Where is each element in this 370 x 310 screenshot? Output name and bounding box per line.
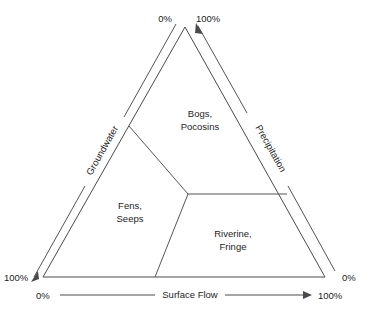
region-fens-seeps-line1: Fens, (118, 200, 142, 211)
precipitation-arrowhead-icon (195, 23, 203, 34)
precipitation-guide-upper (198, 26, 247, 113)
surface-flow-min-percent: 0% (36, 290, 50, 301)
groundwater-guide-lower (34, 186, 85, 277)
apex-left-percent: 0% (158, 13, 172, 24)
region-bogs-pocosins-line1: Bogs, (188, 108, 212, 119)
apex-right-percent: 100% (196, 13, 221, 24)
triangle-outline (43, 27, 325, 277)
precipitation-guide-lower (288, 186, 335, 271)
bottom-right-outer-percent: 0% (342, 272, 356, 283)
groundwater-arrowhead-icon (31, 271, 39, 282)
region-bogs-pocosins-line2: Pocosins (181, 121, 220, 132)
groundwater-guide-upper (124, 24, 176, 117)
surface-flow-arrowhead-icon (303, 291, 312, 299)
ternary-diagram: 0% 100% 100% 0% 0% 100% Groundwater Prec… (0, 0, 370, 310)
surface-flow-axis-label: Surface Flow (162, 289, 218, 300)
region-riverine-fringe-line2: Fringe (220, 241, 247, 252)
bottom-left-outer-percent: 100% (4, 272, 29, 283)
internal-line-lower-left (155, 194, 188, 277)
ternary-svg: 0% 100% 100% 0% 0% 100% Groundwater Prec… (0, 0, 370, 310)
precipitation-axis-label: Precipitation (253, 123, 288, 174)
internal-line-upper-left (129, 126, 188, 194)
region-riverine-fringe-line1: Riverine, (214, 228, 252, 239)
surface-flow-max-percent: 100% (318, 290, 343, 301)
region-fens-seeps-line2: Seeps (117, 213, 144, 224)
